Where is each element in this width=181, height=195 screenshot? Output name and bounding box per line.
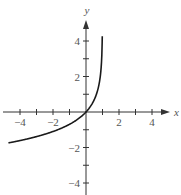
- x-tick-label: 4: [149, 116, 155, 128]
- y-axis-label: y: [84, 4, 90, 16]
- x-tick-label: −4: [14, 116, 26, 128]
- y-tick-label: 2: [75, 71, 81, 83]
- y-tick-label: −4: [68, 177, 80, 189]
- axes: [3, 20, 170, 195]
- x-tick-label: 2: [116, 116, 122, 128]
- x-axis-label: x: [173, 106, 179, 118]
- y-tick-label: 4: [75, 35, 81, 47]
- x-tick-label: −2: [47, 116, 59, 128]
- axis-labels: −4−22442−2−4xy: [14, 4, 179, 189]
- y-tick-label: −2: [68, 142, 80, 154]
- y-axis-arrow-icon: [83, 20, 89, 29]
- x-axis-arrow-icon: [161, 109, 170, 115]
- function-graph: −4−22442−2−4xy: [0, 0, 181, 195]
